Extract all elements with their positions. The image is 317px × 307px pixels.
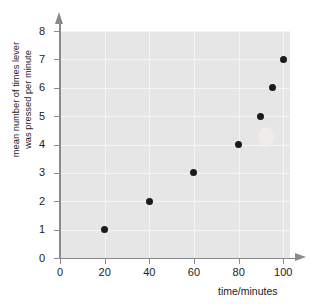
gridline-horizontal xyxy=(60,59,290,60)
gridline-vertical xyxy=(194,31,195,258)
y-axis-label-line2: was pressed per minute xyxy=(22,35,34,165)
y-tick-label: 0 xyxy=(25,253,45,264)
y-tick-label: 2 xyxy=(25,196,45,207)
y-axis-line xyxy=(59,22,61,259)
data-point xyxy=(269,84,276,91)
y-tick-mark xyxy=(54,201,60,202)
x-tick-mark xyxy=(149,258,150,264)
x-tick-label: 80 xyxy=(224,267,254,278)
scatter-chart: 012345678 020406080100 mean number of ti… xyxy=(0,0,317,307)
gridline-horizontal xyxy=(60,201,290,202)
data-point xyxy=(257,113,264,120)
gridline-horizontal xyxy=(60,230,290,231)
x-axis-label: time/minutes xyxy=(218,285,278,297)
x-tick-label: 100 xyxy=(268,267,298,278)
data-point xyxy=(280,56,287,63)
x-axis-arrow-icon xyxy=(295,253,306,261)
x-tick-mark xyxy=(60,258,61,264)
x-tick-mark xyxy=(283,258,284,264)
gridline-horizontal xyxy=(60,173,290,174)
x-tick-label: 60 xyxy=(179,267,209,278)
plot-area xyxy=(60,31,290,258)
data-point xyxy=(235,141,242,148)
data-point xyxy=(146,198,153,205)
y-tick-label: 1 xyxy=(25,224,45,235)
y-tick-mark xyxy=(54,173,60,174)
y-tick-label: 3 xyxy=(25,167,45,178)
gridline-horizontal xyxy=(60,116,290,117)
y-tick-mark xyxy=(54,230,60,231)
x-tick-mark xyxy=(105,258,106,264)
x-tick-label: 20 xyxy=(90,267,120,278)
y-axis-arrow-icon xyxy=(55,12,63,24)
y-tick-mark xyxy=(54,88,60,89)
x-axis-line xyxy=(59,258,295,260)
x-tick-label: 40 xyxy=(134,267,164,278)
gridline-vertical xyxy=(149,31,150,258)
x-tick-label: 0 xyxy=(45,267,75,278)
data-point xyxy=(101,226,108,233)
gridline-horizontal xyxy=(60,145,290,146)
y-axis-label: mean number of times lever was pressed p… xyxy=(11,35,34,165)
gridline-vertical xyxy=(283,31,284,258)
y-axis-label-line1: mean number of times lever xyxy=(11,35,23,165)
gridline-horizontal xyxy=(60,88,290,89)
x-tick-mark xyxy=(239,258,240,264)
y-tick-mark xyxy=(54,31,60,32)
y-tick-mark xyxy=(54,59,60,60)
data-point xyxy=(190,169,197,176)
gridline-horizontal xyxy=(60,31,290,32)
y-tick-mark xyxy=(54,145,60,146)
x-tick-mark xyxy=(194,258,195,264)
gridline-vertical xyxy=(105,31,106,258)
y-tick-mark xyxy=(54,116,60,117)
